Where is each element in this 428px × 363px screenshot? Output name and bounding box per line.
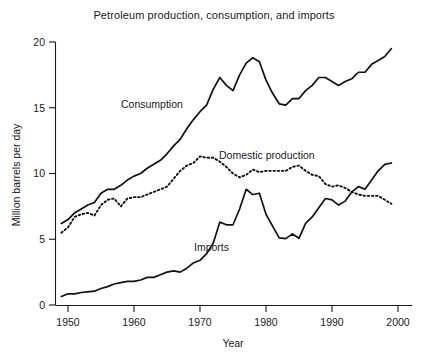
data-series-group xyxy=(61,49,391,297)
x-tick-label: 1980 xyxy=(254,316,278,328)
x-tick-label: 1990 xyxy=(320,316,344,328)
series-annotation-imports: Imports xyxy=(194,241,229,253)
y-axis: 05101520 Million barrels per day xyxy=(10,36,56,311)
x-axis-ticks: 195019601970198019902000 xyxy=(56,306,410,329)
chart-container: Petroleum production, consumption, and i… xyxy=(0,0,428,363)
series-line-domestic-production xyxy=(61,156,391,232)
y-tick-label: 15 xyxy=(33,102,45,114)
x-tick-label: 1970 xyxy=(188,316,212,328)
y-tick-label: 20 xyxy=(33,36,45,48)
x-axis-label: Year xyxy=(222,337,244,349)
x-axis: 195019601970198019902000 Year xyxy=(56,306,413,350)
y-tick-label: 5 xyxy=(39,233,45,245)
series-annotation-consumption: Consumption xyxy=(121,98,183,110)
y-axis-label: Million barrels per day xyxy=(10,123,22,226)
series-line-imports xyxy=(61,163,391,296)
chart-plot-area: 05101520 Million barrels per day 1950196… xyxy=(0,0,428,363)
x-tick-label: 1960 xyxy=(122,316,146,328)
x-tick-label: 2000 xyxy=(386,316,410,328)
series-annotation-domestic-production: Domestic production xyxy=(219,149,315,161)
y-axis-ticks: 05101520 xyxy=(33,36,55,311)
y-tick-label: 0 xyxy=(39,299,45,311)
x-tick-label: 1950 xyxy=(56,316,80,328)
series-line-consumption xyxy=(61,49,391,224)
y-tick-label: 10 xyxy=(33,167,45,179)
